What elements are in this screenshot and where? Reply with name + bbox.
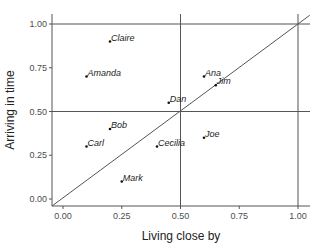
point-label: Amanda [87, 68, 122, 78]
data-point: Mark [120, 173, 143, 183]
data-point: Amanda [85, 68, 121, 78]
y-tick-label: 1.00 [29, 19, 47, 29]
x-axis-title: Living close by [142, 229, 221, 243]
data-point: Cecilia [156, 138, 185, 148]
x-tick-label: 0.75 [230, 211, 248, 221]
x-tick-label: 1.00 [289, 211, 307, 221]
data-points: ClaireAmandaAnaJimDanBobCarlCeciliaJoeMa… [85, 33, 231, 183]
y-tick-label: 0.25 [29, 150, 47, 160]
point-label: Carl [88, 138, 106, 148]
y-tick-label: 0.00 [29, 194, 47, 204]
y-tick-label: 0.50 [29, 107, 47, 117]
data-point: Carl [85, 138, 105, 148]
data-point: Joe [203, 129, 220, 139]
y-axis-title: Arriving in time [3, 70, 17, 150]
data-point: Jim [214, 76, 231, 86]
data-point: Dan [167, 94, 186, 104]
x-tick-label: 0.00 [54, 211, 72, 221]
data-point: Claire [109, 33, 135, 43]
point-label: Mark [123, 173, 143, 183]
data-point: Bob [109, 120, 127, 130]
reference-lines [52, 14, 310, 206]
scatter-chart: 0.000.250.500.751.000.000.250.500.751.00… [0, 0, 320, 249]
x-tick-label: 0.25 [113, 211, 131, 221]
point-label: Jim [216, 76, 231, 86]
point-label: Dan [170, 94, 187, 104]
point-label: Joe [204, 129, 220, 139]
point-label: Cecilia [158, 138, 185, 148]
point-label: Claire [111, 33, 135, 43]
x-tick-label: 0.50 [172, 211, 190, 221]
point-label: Bob [111, 120, 127, 130]
y-tick-label: 0.75 [29, 63, 47, 73]
